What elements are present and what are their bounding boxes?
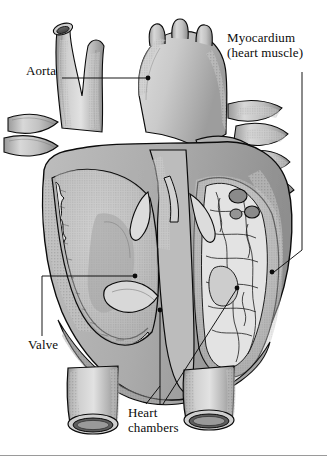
label-aorta-text: Aorta [26, 63, 56, 78]
label-myocardium: Myocardium (heart muscle) [227, 30, 303, 60]
vessel-y-branch [52, 21, 104, 132]
leader-dot-myocardium [270, 270, 275, 275]
label-aorta: Aorta [26, 63, 56, 78]
label-valve: Valve [28, 337, 58, 352]
label-myocardium-line1: Myocardium [227, 30, 295, 45]
heart-body [43, 142, 292, 405]
leader-dot-chamber-right [235, 286, 240, 291]
leader-dot-valve [133, 274, 138, 279]
heart-diagram-figure: Aorta Myocardium (heart muscle) Valve He… [0, 0, 327, 464]
label-heart-chambers-line2: chambers [128, 420, 179, 435]
label-myocardium-line2: (heart muscle) [227, 45, 303, 60]
leader-dot-aorta [146, 76, 151, 81]
vessel-left-lateral [4, 115, 58, 156]
label-heart-chambers-line1: Heart [128, 405, 157, 420]
vessel-stump-right [183, 366, 235, 430]
aortic-arch [138, 19, 227, 150]
vessel-stump-left [67, 366, 119, 434]
label-heart-chambers: Heart chambers [128, 405, 179, 435]
leader-dot-chamber-left [158, 308, 163, 313]
label-valve-text: Valve [28, 337, 58, 352]
